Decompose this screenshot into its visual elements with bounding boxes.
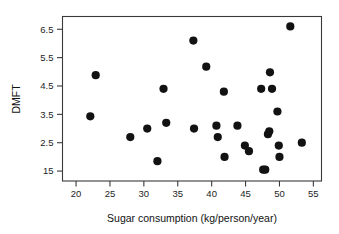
x-tick-label-30: 30 <box>139 188 150 199</box>
data-point <box>220 153 228 161</box>
x-tick-label-40: 40 <box>206 188 217 199</box>
x-axis-title: Sugar consumption (kg/person/year) <box>107 212 277 224</box>
data-point <box>159 85 167 93</box>
x-tick-label-50: 50 <box>274 188 285 199</box>
y-tick-label-4.5: 4.5 <box>40 80 53 91</box>
x-tick-label-55: 55 <box>308 188 319 199</box>
y-axis-title: DMFT <box>10 84 22 114</box>
x-tick-label-20: 20 <box>71 188 82 199</box>
data-point <box>273 107 281 115</box>
data-point <box>212 122 220 130</box>
data-point <box>162 119 170 127</box>
x-tick-label-45: 45 <box>240 188 251 199</box>
data-point <box>233 122 241 130</box>
data-point <box>202 63 210 71</box>
data-point <box>261 166 269 174</box>
data-point <box>298 139 306 147</box>
y-tick-label-3.5: 3.5 <box>40 109 53 120</box>
data-point <box>86 112 94 120</box>
x-tick-label-35: 35 <box>172 188 183 199</box>
data-point <box>190 124 198 132</box>
data-point <box>257 85 265 93</box>
data-point <box>275 153 283 161</box>
data-point <box>275 141 283 149</box>
data-point <box>245 147 253 155</box>
y-tick-label-5.5: 5.5 <box>40 52 53 63</box>
data-point <box>143 124 151 132</box>
data-point <box>266 68 274 76</box>
dmft-vs-sugar-scatter-chart: 152.53.54.55.56.5 2025303540455055 Sugar… <box>0 0 339 234</box>
data-point <box>126 133 134 141</box>
data-point <box>268 85 276 93</box>
y-tick-label-6.5: 6.5 <box>40 24 53 35</box>
x-tick-label-25: 25 <box>105 188 116 199</box>
y-tick-label-15: 15 <box>43 165 54 176</box>
data-point <box>220 88 228 96</box>
data-point <box>214 133 222 141</box>
y-tick-label-2.5: 2.5 <box>40 137 53 148</box>
data-point <box>286 22 294 30</box>
data-point <box>92 71 100 79</box>
data-point <box>189 37 197 45</box>
scatter-plot-figure: 152.53.54.55.56.5 2025303540455055 Sugar… <box>0 0 339 234</box>
data-point <box>153 157 161 165</box>
data-point <box>265 127 273 135</box>
